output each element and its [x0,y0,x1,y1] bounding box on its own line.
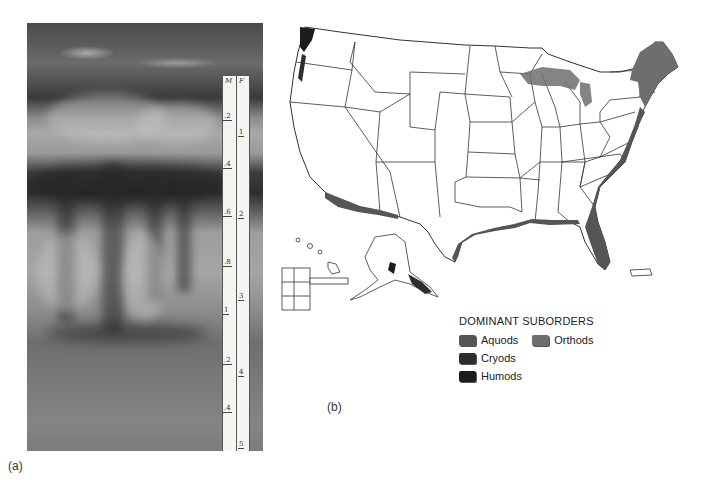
ruler-mark: 1 [223,306,229,315]
ruler-imperial: F 1 2 3 4 5 [236,75,250,451]
ruler-mark: 1 [238,128,244,137]
light-patch [37,233,97,313]
ruler-mark: 5 [238,440,244,449]
tongue-streak [102,163,124,333]
ruler-mark: .4 [223,404,232,413]
bleached-horizon-patch [137,103,217,143]
legend-row: Aquods Orthods [459,331,619,349]
alaska-map [350,234,438,300]
pacific-islands-inset [282,268,348,310]
ruler-mark: 2 [238,210,244,219]
cryods-swatch [459,353,476,364]
legend-row: Humods [459,367,619,385]
dark-band [47,323,207,343]
legend-item-cryods: Cryods [459,352,516,364]
ruler-mark: 3 [238,292,244,301]
legend-title: DOMINANT SUBORDERS [459,315,619,327]
tongue-streak [177,183,191,293]
ruler-mark: .2 [223,356,232,365]
aquods-swatch [459,335,476,346]
ruler-mark: .4 [223,160,232,169]
ruler-left-header: M [225,77,232,85]
puerto-rico-map [630,269,652,276]
caption-a: (a) [8,459,23,473]
legend-label: Aquods [481,334,518,346]
ruler-right-header: F [239,77,244,85]
ruler-mark: .6 [223,208,232,217]
soil-profile-photo: M .2 .4 .6 .8 1 .2 .4 F 1 2 3 4 5 [27,23,263,451]
light-patch [122,233,167,323]
caption-b: (b) [327,400,342,414]
ruler-mark: .2 [223,112,232,121]
orthods-swatch [532,335,549,346]
conterminous-us-outline [290,27,678,270]
legend-item-orthods: Orthods [532,334,593,346]
legend-label: Orthods [554,334,593,346]
ruler-mark: .8 [223,258,232,267]
us-spodosol-map [280,12,720,312]
legend-row: Cryods [459,349,619,367]
legend-label: Humods [481,370,522,382]
map-legend: DOMINANT SUBORDERS Aquods Orthods Cryods… [459,315,619,385]
legend-item-aquods: Aquods [459,334,518,346]
ruler-mark: 4 [238,368,244,377]
legend-item-humods: Humods [459,370,522,382]
legend-label: Cryods [481,352,516,364]
humods-swatch [459,371,476,382]
